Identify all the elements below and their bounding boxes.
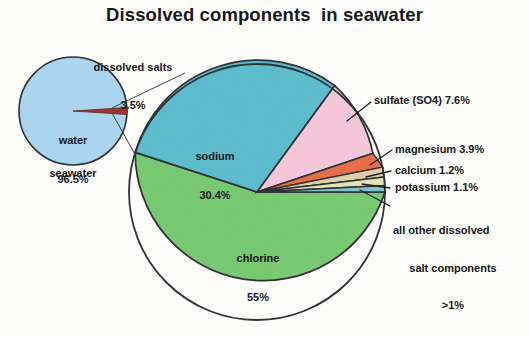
label-other-components: all other dissolved salt components >1% (393, 199, 525, 337)
label-chlorine-value: 55% (208, 291, 308, 304)
label-other-components-line1: all other dissolved (393, 224, 525, 237)
label-potassium: potassium 1.1% (395, 181, 478, 194)
label-seawater-caption: seawater (23, 167, 123, 180)
label-sodium: sodium 30.4% (165, 124, 265, 228)
label-sodium-name: sodium (165, 150, 265, 163)
label-calcium: calcium 1.2% (395, 164, 464, 177)
label-water: water 96.5% (23, 108, 123, 212)
chart-canvas: Dissolved components in seawater (0, 0, 529, 337)
label-other-components-line2: salt components (393, 262, 513, 275)
label-sulfate: sulfate (SO4) 7.6% (374, 94, 470, 107)
label-other-components-line3: >1% (393, 299, 513, 312)
label-water-name: water (23, 134, 123, 147)
label-magnesium: magnesium 3.9% (395, 143, 484, 156)
label-dissolved-salts-name: dissolved salts (48, 61, 218, 74)
label-sodium-value: 30.4% (165, 189, 265, 202)
label-chlorine-name: chlorine (208, 252, 308, 265)
label-chlorine: chlorine 55% (208, 226, 308, 330)
